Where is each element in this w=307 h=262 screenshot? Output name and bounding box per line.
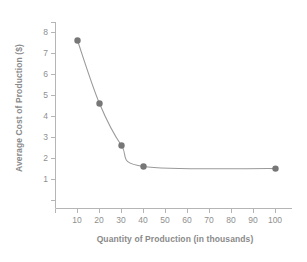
data-point-markers [74, 37, 278, 172]
data-point [74, 37, 80, 43]
x-tick-label-50: 50 [155, 215, 175, 225]
data-series-line [78, 41, 276, 169]
data-point [272, 165, 278, 171]
x-tick-label-90: 90 [243, 215, 263, 225]
y-tick-label-2: 2 [36, 153, 48, 163]
chart-container: 8 7 6 5 4 3 2 1 10 20 30 40 50 60 70 80 … [0, 0, 307, 262]
data-point [96, 100, 102, 106]
data-point [140, 163, 146, 169]
y-tick-label-1: 1 [36, 174, 48, 184]
y-tick-label-4: 4 [36, 111, 48, 121]
y-tick-label-7: 7 [36, 48, 48, 58]
y-axis-ticks [51, 23, 56, 201]
x-tick-label-100: 100 [265, 215, 285, 225]
x-tick-label-70: 70 [199, 215, 219, 225]
y-tick-label-8: 8 [36, 27, 48, 37]
y-tick-label-5: 5 [36, 90, 48, 100]
x-axis-title: Quantity of Production (in thousands) [46, 234, 304, 244]
y-tick-label-3: 3 [36, 132, 48, 142]
y-tick-label-6: 6 [36, 69, 48, 79]
y-axis-title: Average Cost of Production ($) [14, 18, 28, 198]
x-tick-label-80: 80 [221, 215, 241, 225]
x-axis-ticks [56, 209, 276, 214]
x-tick-label-40: 40 [133, 215, 153, 225]
x-tick-label-20: 20 [89, 215, 109, 225]
x-tick-label-30: 30 [111, 215, 131, 225]
x-tick-label-10: 10 [67, 215, 87, 225]
data-point [118, 142, 124, 148]
x-tick-label-60: 60 [177, 215, 197, 225]
